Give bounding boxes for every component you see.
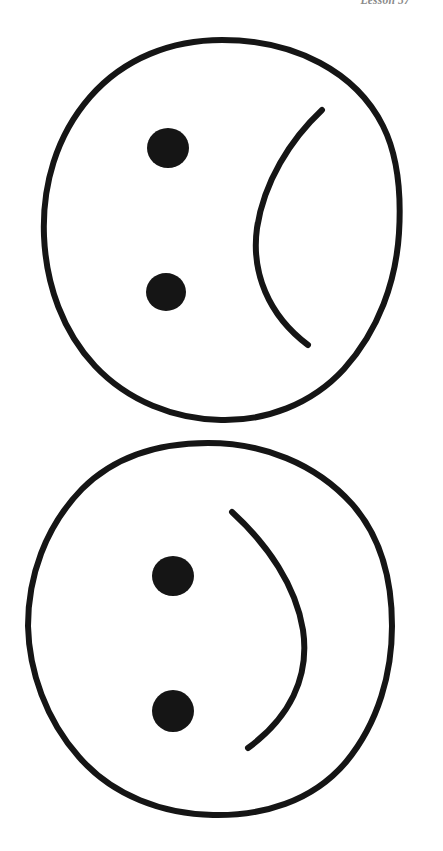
eye-dot-lower-top — [146, 273, 186, 311]
figure-top — [44, 40, 400, 420]
eye-dot-upper-top — [147, 128, 189, 168]
figure-stage — [0, 0, 443, 851]
mouth-arc-top — [256, 110, 322, 345]
face-outline-circle-top — [44, 40, 400, 420]
figure-bottom — [28, 443, 392, 815]
eye-dot-upper-bottom — [152, 556, 194, 596]
eye-dot-lower-bottom — [152, 690, 194, 732]
face-outline-circle-bottom — [28, 443, 392, 815]
mouth-arc-bottom — [232, 512, 304, 748]
scanned-page: Lesson 57 — [0, 0, 443, 851]
line-drawing-canvas — [0, 0, 443, 851]
